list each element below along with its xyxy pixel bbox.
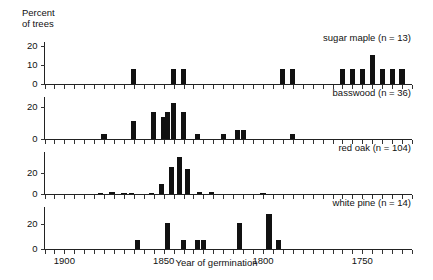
y-tick <box>41 107 45 108</box>
x-tick <box>174 195 175 199</box>
histogram-bar <box>98 193 103 194</box>
histogram-bar <box>290 69 295 84</box>
x-tick <box>45 195 46 199</box>
y-tick-label: 20 <box>11 40 38 51</box>
histogram-bar <box>159 184 164 194</box>
x-tick <box>253 85 254 89</box>
x-tick <box>293 85 294 89</box>
histogram-bar <box>171 103 176 139</box>
x-tick <box>203 250 204 254</box>
x-tick <box>233 140 234 144</box>
x-tick <box>372 140 373 144</box>
x-tick <box>104 250 105 254</box>
y-tick-label: 20 <box>11 218 38 229</box>
x-tick <box>253 250 254 254</box>
histogram-bar <box>195 134 200 139</box>
x-tick <box>223 85 224 89</box>
histogram-bar <box>280 69 285 84</box>
x-tick <box>144 250 145 254</box>
x-tick <box>362 250 363 254</box>
x-tick <box>263 250 264 254</box>
x-tick <box>144 85 145 89</box>
x-tick <box>323 250 324 254</box>
series-label-red-oak: red oak (n = 104) <box>171 142 411 153</box>
x-tick <box>94 195 95 199</box>
series-label-white-pine: white pine (n = 14) <box>171 197 411 208</box>
y-tick <box>41 46 45 47</box>
x-tick <box>402 85 403 89</box>
x-tick <box>124 85 125 89</box>
x-tick <box>273 85 274 89</box>
x-tick <box>64 250 65 254</box>
x-tick <box>84 140 85 144</box>
x-tick <box>213 140 214 144</box>
x-tick <box>104 140 105 144</box>
x-tick <box>253 140 254 144</box>
y-tick <box>41 194 45 195</box>
x-tick <box>243 85 244 89</box>
x-tick <box>54 140 55 144</box>
x-tick <box>134 85 135 89</box>
x-tick <box>352 140 353 144</box>
x-tick <box>263 140 264 144</box>
x-tick <box>134 140 135 144</box>
y-tick-label: 20 <box>11 101 38 112</box>
x-tick <box>45 85 46 89</box>
x-tick <box>154 195 155 199</box>
x-tick <box>263 85 264 89</box>
x-tick <box>124 140 125 144</box>
x-tick <box>243 140 244 144</box>
y-tick-label: 0 <box>11 133 38 144</box>
x-tick <box>342 85 343 89</box>
x-tick <box>134 250 135 254</box>
x-tick <box>64 85 65 89</box>
x-tick <box>362 85 363 89</box>
histogram-bar <box>290 134 295 139</box>
plot-frame <box>44 152 412 195</box>
histogram-bar <box>181 69 186 84</box>
x-tick <box>313 140 314 144</box>
x-tick <box>84 85 85 89</box>
x-tick <box>114 250 115 254</box>
y-axis-title-line2: of trees <box>22 18 54 29</box>
x-tick <box>174 140 175 144</box>
x-tick <box>74 195 75 199</box>
histogram-bar <box>241 130 246 139</box>
x-tick <box>164 195 165 199</box>
x-tick <box>104 195 105 199</box>
x-tick <box>233 85 234 89</box>
histogram-bar <box>121 193 126 194</box>
histogram-bar <box>201 240 206 249</box>
x-tick <box>352 85 353 89</box>
x-tick <box>382 85 383 89</box>
x-tick <box>94 250 95 254</box>
x-tick <box>323 195 324 199</box>
x-tick <box>94 85 95 89</box>
histogram-bar <box>185 169 190 194</box>
x-tick <box>382 250 383 254</box>
histogram-bar <box>360 69 365 84</box>
histogram-bar <box>171 69 176 84</box>
x-tick <box>333 195 334 199</box>
y-tick <box>41 224 45 225</box>
y-tick <box>41 173 45 174</box>
x-tick <box>193 195 194 199</box>
panel-sugar-maple: 01020sugar maple (n = 13) <box>0 0 433 280</box>
x-tick <box>114 195 115 199</box>
panel-white-pine: 020white pine (n = 14) <box>0 0 433 280</box>
x-tick <box>323 85 324 89</box>
x-tick <box>323 140 324 144</box>
plot-frame <box>44 97 412 140</box>
x-tick <box>342 195 343 199</box>
x-tick <box>164 140 165 144</box>
series-label-basswood: basswood (n = 36) <box>171 87 411 98</box>
x-tick <box>402 140 403 144</box>
x-tick <box>154 85 155 89</box>
y-tick <box>41 249 45 250</box>
x-tick <box>362 195 363 199</box>
x-tick <box>154 140 155 144</box>
x-tick <box>243 250 244 254</box>
x-tick <box>412 195 413 199</box>
histogram-bar <box>161 117 166 139</box>
x-tick <box>184 250 185 254</box>
